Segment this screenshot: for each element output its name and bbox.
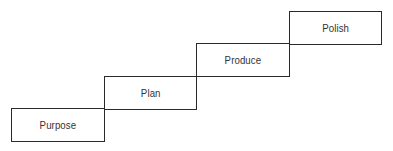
step-purpose: Purpose [11, 108, 105, 142]
step-polish: Polish [289, 11, 382, 45]
staircase-diagram: Purpose Plan Produce Polish [0, 0, 393, 151]
step-label: Produce [225, 54, 262, 66]
step-produce: Produce [196, 43, 290, 77]
step-label: Plan [141, 87, 161, 99]
step-plan: Plan [104, 76, 197, 110]
step-label: Polish [322, 22, 349, 34]
step-label: Purpose [40, 119, 77, 131]
